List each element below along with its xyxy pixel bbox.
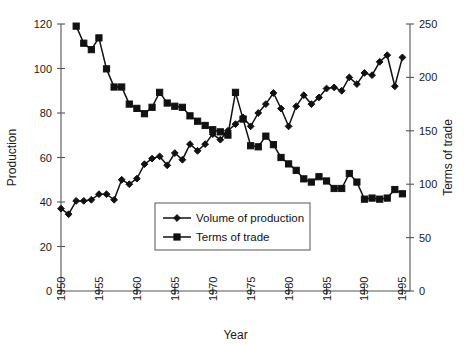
legend-label-0: Volume of production (196, 212, 304, 224)
data-point-0 (331, 84, 338, 91)
line-chart: 0204060801001200501001502002501950195519… (0, 0, 468, 346)
data-point-1 (293, 167, 299, 173)
data-point-1 (278, 154, 284, 160)
data-point-0 (118, 176, 125, 183)
data-point-1 (134, 105, 140, 111)
data-point-1 (81, 40, 87, 46)
data-point-1 (111, 84, 117, 90)
data-point-0 (278, 105, 285, 112)
y-tick-label-left: 120 (34, 18, 52, 30)
x-tick-label: 1970 (207, 277, 219, 301)
y-axis-title-left: Production (5, 129, 19, 186)
data-point-1 (73, 23, 79, 29)
y-tick-label-left: 20 (40, 241, 52, 253)
data-point-1 (202, 122, 208, 128)
data-point-1 (194, 118, 200, 124)
x-tick-label: 1995 (396, 277, 408, 301)
data-point-1 (172, 103, 178, 109)
data-point-1 (316, 174, 322, 180)
y-tick-label-right: 0 (419, 285, 425, 297)
y-tick-label-right: 200 (419, 71, 437, 83)
data-point-1 (126, 101, 132, 107)
data-point-0 (338, 87, 345, 94)
y-axis-title-right: Terms of trade (441, 119, 455, 196)
data-point-0 (73, 197, 80, 204)
y-tick-label-left: 0 (46, 285, 52, 297)
legend-marker-1 (174, 234, 180, 240)
data-point-1 (240, 116, 246, 122)
y-tick-label-right: 150 (419, 125, 437, 137)
data-point-1 (96, 35, 102, 41)
data-point-1 (248, 143, 254, 149)
data-point-1 (346, 170, 352, 176)
data-point-1 (179, 104, 185, 110)
data-point-1 (119, 84, 125, 90)
data-point-1 (164, 100, 170, 106)
data-point-1 (88, 47, 94, 53)
data-point-1 (369, 195, 375, 201)
y-tick-label-right: 100 (419, 178, 437, 190)
data-point-1 (323, 178, 329, 184)
data-point-1 (308, 179, 314, 185)
data-point-1 (263, 133, 269, 139)
data-point-1 (339, 185, 345, 191)
x-tick-label: 1955 (93, 277, 105, 301)
data-point-0 (399, 54, 406, 61)
series-line-1 (76, 26, 402, 199)
x-tick-label: 1965 (169, 277, 181, 301)
data-point-1 (149, 104, 155, 110)
data-point-1 (399, 191, 405, 197)
legend-label-1: Terms of trade (196, 231, 270, 243)
x-tick-label: 1950 (55, 277, 67, 301)
data-point-1 (217, 129, 223, 135)
data-point-1 (354, 179, 360, 185)
chart-container: 0204060801001200501001502002501950195519… (0, 0, 468, 346)
data-point-1 (331, 185, 337, 191)
data-point-1 (141, 111, 147, 117)
x-tick-label: 1985 (321, 277, 333, 301)
x-tick-label: 1975 (245, 277, 257, 301)
data-point-0 (391, 83, 398, 90)
data-point-0 (285, 123, 292, 130)
data-point-0 (369, 72, 376, 79)
x-axis-title: Year (223, 328, 247, 342)
data-point-1 (384, 195, 390, 201)
data-point-1 (392, 186, 398, 192)
data-point-1 (210, 127, 216, 133)
data-point-1 (270, 142, 276, 148)
data-point-0 (80, 197, 87, 204)
data-point-1 (103, 66, 109, 72)
data-point-1 (225, 132, 231, 138)
x-tick-label: 1990 (358, 277, 370, 301)
x-tick-label: 1960 (131, 277, 143, 301)
data-point-1 (232, 89, 238, 95)
data-point-1 (187, 113, 193, 119)
data-point-1 (301, 176, 307, 182)
y-tick-label-right: 50 (419, 232, 431, 244)
data-point-1 (255, 144, 261, 150)
x-tick-label: 1980 (283, 277, 295, 301)
data-point-1 (157, 89, 163, 95)
data-point-1 (361, 196, 367, 202)
data-point-1 (286, 161, 292, 167)
y-tick-label-left: 80 (40, 107, 52, 119)
y-tick-label-left: 60 (40, 152, 52, 164)
y-tick-label-left: 100 (34, 63, 52, 75)
y-tick-label-left: 40 (40, 196, 52, 208)
data-point-1 (377, 196, 383, 202)
y-tick-label-right: 250 (419, 18, 437, 30)
